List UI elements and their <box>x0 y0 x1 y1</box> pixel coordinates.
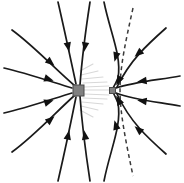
field-diagram-figure <box>0 0 184 183</box>
small-charge <box>110 88 116 94</box>
large-charge <box>73 85 84 96</box>
figure-background <box>0 0 184 183</box>
field-diagram-canvas <box>0 0 184 183</box>
